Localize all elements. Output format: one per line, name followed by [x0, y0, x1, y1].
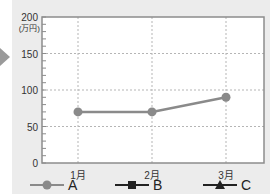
y-tick-label: 50 — [27, 122, 39, 133]
line-chart: 050100150200(万円)1月2月3月ABC — [0, 0, 270, 194]
legend-label-a: A — [68, 177, 78, 193]
y-axis-unit-label: (万円) — [19, 24, 41, 33]
data-point-a — [74, 107, 83, 116]
data-point-a — [148, 107, 157, 116]
square-marker-icon — [128, 181, 136, 189]
circle-marker-icon — [43, 181, 52, 190]
y-tick-label: 150 — [21, 49, 38, 60]
legend-label-c: C — [241, 177, 251, 193]
y-tick-label: 100 — [21, 85, 38, 96]
y-tick-label: 200 — [21, 12, 38, 23]
y-tick-label: 0 — [32, 158, 38, 169]
data-point-a — [222, 93, 231, 102]
legend-label-b: B — [153, 177, 162, 193]
x-tick-label: 3月 — [218, 170, 234, 181]
